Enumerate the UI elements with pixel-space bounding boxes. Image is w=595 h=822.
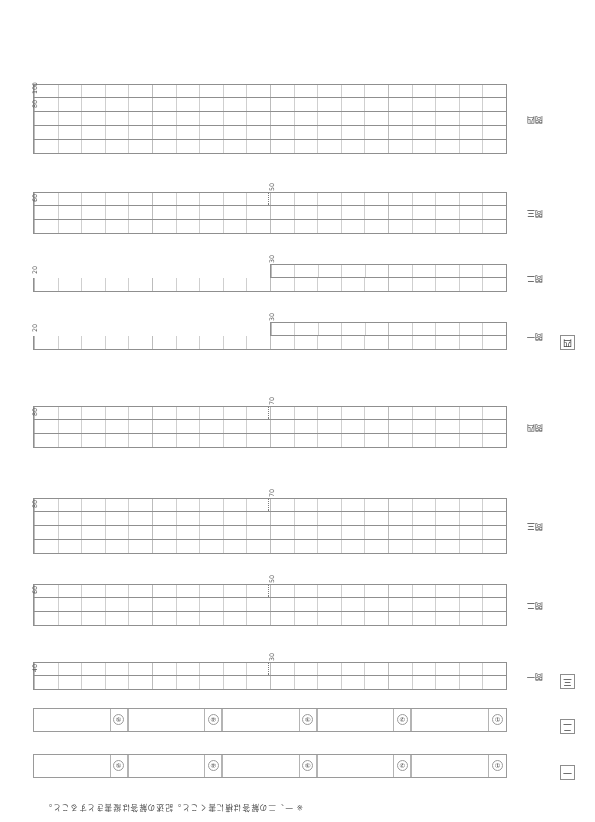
answer-grid-cell[interactable] xyxy=(176,526,200,539)
answer-grid-cell[interactable] xyxy=(176,585,200,597)
answer-grid-cell[interactable] xyxy=(482,407,506,419)
answer-grid-cell[interactable] xyxy=(341,585,365,597)
answer-grid-cell[interactable] xyxy=(81,126,105,139)
answer-grid-cell[interactable] xyxy=(388,220,412,233)
answer-grid-cell[interactable] xyxy=(482,278,506,291)
answer-grid-cell[interactable] xyxy=(412,140,436,153)
answer-grid-cell[interactable] xyxy=(105,98,129,111)
answer-grid-cell[interactable] xyxy=(223,598,247,611)
answer-grid-cell[interactable] xyxy=(388,336,412,349)
answer-grid-cell[interactable] xyxy=(223,206,247,219)
answer-grid-cell[interactable] xyxy=(412,112,436,125)
answer-grid-cell[interactable] xyxy=(199,98,223,111)
answer-strip-一[interactable]: ①②③④⑤ xyxy=(33,754,507,778)
answer-grid-cell[interactable] xyxy=(435,278,459,291)
answer-grid-cell[interactable] xyxy=(105,140,129,153)
answer-grid-cell[interactable] xyxy=(482,612,506,625)
answer-grid-cell[interactable] xyxy=(246,526,270,539)
answer-grid-cell[interactable] xyxy=(223,112,247,125)
answer-grid-row[interactable] xyxy=(33,434,507,448)
answer-grid-cell[interactable] xyxy=(34,676,58,689)
answer-grid-cell[interactable] xyxy=(129,499,153,511)
answer-grid-cell[interactable] xyxy=(388,112,412,125)
answer-grid-cell[interactable] xyxy=(58,278,82,291)
answer-grid-cell[interactable] xyxy=(482,676,506,689)
answer-grid-cell[interactable] xyxy=(270,598,294,611)
answer-input-cell-4[interactable] xyxy=(128,709,205,731)
answer-grid-cell[interactable] xyxy=(270,434,294,447)
answer-grid-cell[interactable] xyxy=(270,663,294,675)
answer-grid-cell[interactable] xyxy=(176,140,200,153)
answer-grid-cell[interactable] xyxy=(341,85,365,97)
answer-grid-cell[interactable] xyxy=(246,420,270,433)
answer-grid-cell[interactable] xyxy=(459,499,483,511)
answer-grid-cell[interactable] xyxy=(129,598,153,611)
answer-grid-cell[interactable] xyxy=(388,676,412,689)
answer-grid-cell[interactable] xyxy=(364,336,388,349)
answer-grid-cell[interactable] xyxy=(317,85,341,97)
answer-grid-cell[interactable] xyxy=(81,540,105,553)
answer-grid-cell[interactable] xyxy=(482,434,506,447)
answer-grid-cell[interactable] xyxy=(364,540,388,553)
answer-grid-cell[interactable] xyxy=(364,407,388,419)
answer-grid-row[interactable] xyxy=(33,98,507,112)
answer-grid-cell[interactable] xyxy=(270,220,294,233)
answer-grid-cell[interactable] xyxy=(364,112,388,125)
answer-grid-cell[interactable] xyxy=(223,278,247,291)
answer-grid-cell[interactable] xyxy=(58,598,82,611)
answer-grid-3-1[interactable] xyxy=(33,584,507,626)
answer-grid-row[interactable] xyxy=(33,540,507,554)
answer-grid-cell[interactable] xyxy=(341,526,365,539)
answer-grid-cell[interactable] xyxy=(435,220,459,233)
answer-grid-cell[interactable] xyxy=(317,336,341,349)
answer-grid-cell[interactable] xyxy=(388,193,412,205)
answer-grid-cell[interactable] xyxy=(176,193,200,205)
answer-grid-cell[interactable] xyxy=(105,526,129,539)
answer-grid-cell[interactable] xyxy=(342,323,366,335)
answer-grid-cell[interactable] xyxy=(129,420,153,433)
answer-grid-cell[interactable] xyxy=(152,598,176,611)
answer-grid-row[interactable] xyxy=(33,192,507,206)
answer-grid-cell[interactable] xyxy=(364,434,388,447)
answer-grid-cell[interactable] xyxy=(223,499,247,511)
answer-grid-cell[interactable] xyxy=(223,98,247,111)
answer-grid-cell[interactable] xyxy=(246,278,270,291)
answer-grid-cell[interactable] xyxy=(34,206,58,219)
answer-grid-cell[interactable] xyxy=(176,112,200,125)
answer-grid-cell[interactable] xyxy=(482,420,506,433)
answer-grid-cell[interactable] xyxy=(317,98,341,111)
answer-grid-cell[interactable] xyxy=(58,585,82,597)
answer-grid-cell[interactable] xyxy=(341,499,365,511)
answer-grid-cell[interactable] xyxy=(388,420,412,433)
answer-grid-cell[interactable] xyxy=(105,663,129,675)
answer-grid-cell[interactable] xyxy=(81,98,105,111)
answer-grid-cell[interactable] xyxy=(270,140,294,153)
answer-grid-cell[interactable] xyxy=(317,612,341,625)
answer-grid-cell[interactable] xyxy=(129,336,153,349)
answer-grid-cell[interactable] xyxy=(294,140,318,153)
answer-grid-cell[interactable] xyxy=(129,193,153,205)
answer-grid-cell[interactable] xyxy=(317,206,341,219)
answer-grid-cell[interactable] xyxy=(412,98,436,111)
answer-grid-cell[interactable] xyxy=(152,512,176,525)
answer-grid-cell[interactable] xyxy=(199,278,223,291)
answer-grid-cell[interactable] xyxy=(199,112,223,125)
answer-grid-cell[interactable] xyxy=(435,98,459,111)
answer-grid-cell[interactable] xyxy=(317,598,341,611)
answer-grid-cell[interactable] xyxy=(482,598,506,611)
answer-grid-cell[interactable] xyxy=(176,434,200,447)
answer-grid-cell[interactable] xyxy=(199,193,223,205)
answer-grid-cell[interactable] xyxy=(317,278,341,291)
answer-grid-row[interactable] xyxy=(33,406,507,420)
answer-grid-cell[interactable] xyxy=(388,585,412,597)
answer-grid-cell[interactable] xyxy=(270,278,294,291)
answer-grid-cell[interactable] xyxy=(105,540,129,553)
answer-grid-cell[interactable] xyxy=(435,112,459,125)
answer-grid-cell[interactable] xyxy=(459,265,483,277)
answer-grid-cell[interactable] xyxy=(412,526,436,539)
answer-grid-cell[interactable] xyxy=(58,434,82,447)
answer-grid-cell[interactable] xyxy=(483,323,507,335)
answer-grid-cell[interactable] xyxy=(223,407,247,419)
answer-grid-cell[interactable] xyxy=(246,336,270,349)
answer-grid-cell[interactable] xyxy=(81,434,105,447)
